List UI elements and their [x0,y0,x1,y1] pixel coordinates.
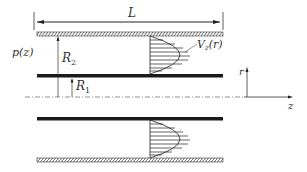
velocity-label: Vz(r) [197,38,223,52]
velocity-profile-upper [150,36,190,74]
outer-radius-label: R2 [61,51,76,67]
velocity-leader-line [185,44,197,52]
outer-wall-top [37,32,223,36]
inner-radius-label: R1 [75,79,90,95]
coordinate-axes [244,67,293,99]
inner-radius-arrow [71,78,74,97]
inner-wall-upper [37,74,223,78]
outer-radius-arrow [57,36,60,97]
pressure-label: p(z) [12,46,33,59]
velocity-profile-lower [150,120,190,158]
z-axis-label: z [287,100,294,111]
r-axis-label: r [239,66,245,77]
length-label: L [127,6,136,20]
inner-wall-lower [37,117,223,121]
outer-wall-bottom [37,158,223,162]
annular-flow-diagram: L R2 R1 p(z) Vz(r) [0,0,307,172]
